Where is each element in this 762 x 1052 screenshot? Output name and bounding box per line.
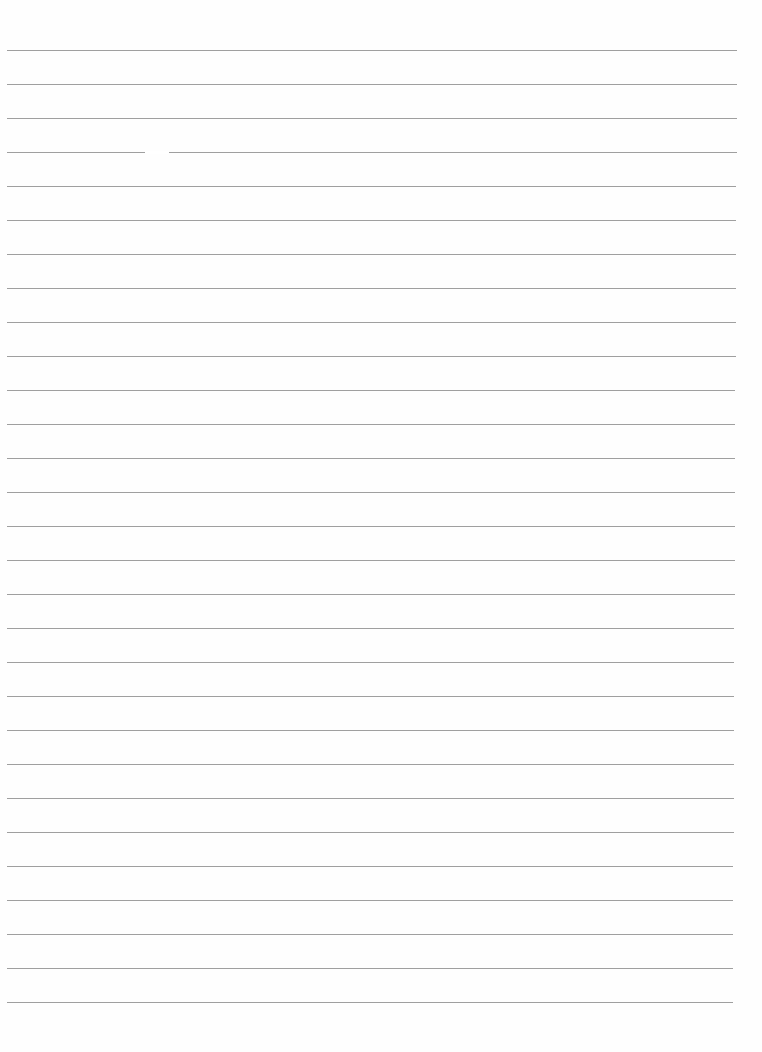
ruled-line xyxy=(7,696,734,697)
ruled-line xyxy=(7,186,736,187)
ruled-line xyxy=(7,50,737,51)
ruled-line xyxy=(7,968,733,969)
ruled-line xyxy=(7,730,734,731)
ruled-line xyxy=(7,628,734,629)
ruled-line xyxy=(7,356,736,357)
ruled-line xyxy=(7,288,736,289)
ruled-line xyxy=(7,220,736,221)
ruled-line xyxy=(7,322,736,323)
ruled-line xyxy=(7,764,734,765)
ruled-line xyxy=(7,526,735,527)
ruled-line xyxy=(7,832,734,833)
lined-paper-page xyxy=(0,0,762,1052)
ruled-line xyxy=(7,458,735,459)
ruled-line xyxy=(7,424,735,425)
scan-artifact xyxy=(145,151,169,154)
ruled-line xyxy=(7,934,733,935)
ruled-line xyxy=(7,594,735,595)
ruled-line xyxy=(7,118,737,119)
ruled-line xyxy=(7,152,737,153)
ruled-line xyxy=(7,254,736,255)
ruled-line xyxy=(7,84,737,85)
ruled-line xyxy=(7,866,733,867)
ruled-line xyxy=(7,492,735,493)
ruled-line xyxy=(7,798,734,799)
ruled-line xyxy=(7,560,735,561)
ruled-line xyxy=(7,1002,733,1003)
ruled-line xyxy=(7,662,734,663)
ruled-line xyxy=(7,390,735,391)
ruled-line xyxy=(7,900,733,901)
